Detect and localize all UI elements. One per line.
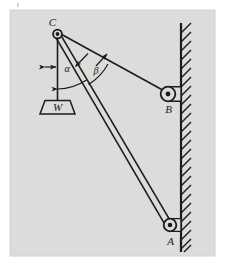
angle-beta-label: β	[93, 65, 99, 76]
weight-block: W	[40, 101, 75, 115]
pulley-a	[164, 219, 181, 232]
angle-alpha-label: α	[65, 63, 71, 74]
pivot-c	[53, 30, 62, 39]
point-a-label: A	[166, 235, 174, 247]
scan-speck	[17, 3, 19, 7]
figure-root: W α β	[0, 0, 229, 265]
pivot-c-hub	[56, 32, 60, 36]
figure-canvas: W α β	[0, 0, 229, 265]
point-c-label: C	[49, 16, 57, 28]
pulley-b	[161, 87, 181, 102]
point-b-label: B	[165, 103, 172, 115]
pulley-a-hub	[168, 223, 173, 228]
weight-label: W	[53, 101, 63, 113]
pulley-b-hub	[166, 92, 171, 97]
